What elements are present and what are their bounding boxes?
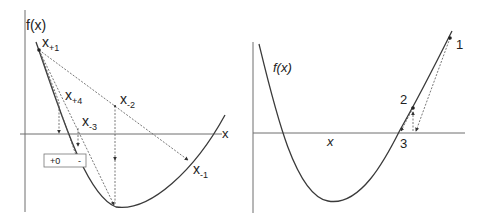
label-point-2: 2 [400, 92, 407, 107]
label-point-1: 1 [456, 37, 463, 52]
label-x+1: x+1 [42, 34, 59, 53]
label-x-1: x-1 [193, 161, 208, 180]
point-1 [448, 36, 452, 40]
diagram-canvas: f(x) x x+1 x+4 x-2 x-3 x-1 +0 - f(x) x 1… [0, 0, 482, 221]
point-x+1 [37, 48, 41, 52]
label-point-3: 3 [400, 136, 407, 151]
left-x-axis-label: x [222, 126, 229, 141]
sign-box: +0 - [44, 154, 86, 167]
point-x-2 [114, 105, 116, 107]
label-x+4: x+4 [65, 87, 82, 106]
left-function-curve [36, 42, 225, 207]
secant-to-x+4 [39, 50, 59, 102]
right-x-axis-label: x [326, 134, 334, 149]
secant-to-x-1 [39, 50, 188, 160]
label-x-2: x-2 [120, 91, 135, 110]
newton-step-1 [416, 38, 450, 131]
secant-to-min [39, 50, 114, 205]
right-function-curve [259, 31, 452, 202]
left-y-axis-label: f(x) [26, 17, 46, 33]
left-panel: f(x) x x+1 x+4 x-2 x-3 x-1 +0 - [20, 10, 229, 212]
sign-box-plus: +0 [50, 156, 60, 166]
sign-box-minus: - [78, 156, 81, 166]
newton-step-2 [401, 108, 413, 131]
point-2 [411, 106, 415, 110]
right-panel: f(x) x 1 2 3 [253, 31, 465, 213]
label-x-3: x-3 [82, 113, 97, 132]
right-y-axis-label: f(x) [273, 60, 292, 75]
